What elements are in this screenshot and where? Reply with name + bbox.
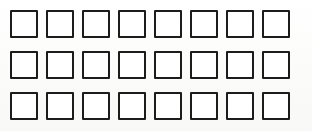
checkbox-r2c8[interactable] bbox=[262, 51, 290, 79]
checkbox-r3c3[interactable] bbox=[82, 92, 110, 120]
checkbox-r1c3[interactable] bbox=[82, 10, 110, 38]
checkbox-r1c8[interactable] bbox=[262, 10, 290, 38]
checkbox-r2c3[interactable] bbox=[82, 51, 110, 79]
checkbox-r1c5[interactable] bbox=[154, 10, 182, 38]
checkbox-r2c6[interactable] bbox=[190, 51, 218, 79]
checkbox-r1c6[interactable] bbox=[190, 10, 218, 38]
checkbox-r2c5[interactable] bbox=[154, 51, 182, 79]
checkbox-r2c7[interactable] bbox=[226, 51, 254, 79]
checkbox-r2c2[interactable] bbox=[46, 51, 74, 79]
checkbox-r1c1[interactable] bbox=[10, 10, 38, 38]
checkbox-r3c8[interactable] bbox=[262, 92, 290, 120]
checkbox-r2c1[interactable] bbox=[10, 51, 38, 79]
checkbox-r3c2[interactable] bbox=[46, 92, 74, 120]
checkbox-r2c4[interactable] bbox=[118, 51, 146, 79]
checkbox-r1c7[interactable] bbox=[226, 10, 254, 38]
checkbox-r3c7[interactable] bbox=[226, 92, 254, 120]
checkbox-r3c5[interactable] bbox=[154, 92, 182, 120]
checkbox-r1c2[interactable] bbox=[46, 10, 74, 38]
checkbox-r3c4[interactable] bbox=[118, 92, 146, 120]
checkbox-sheet bbox=[0, 0, 312, 131]
checkbox-r1c4[interactable] bbox=[118, 10, 146, 38]
checkbox-r3c6[interactable] bbox=[190, 92, 218, 120]
checkbox-r3c1[interactable] bbox=[10, 92, 38, 120]
checkbox-grid bbox=[10, 10, 290, 120]
